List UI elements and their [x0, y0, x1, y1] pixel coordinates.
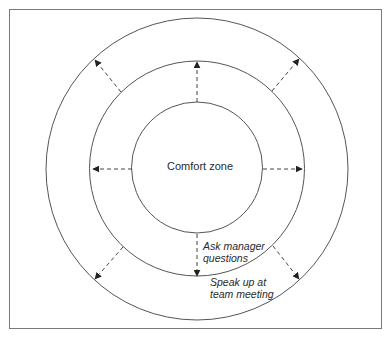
comfort-zone-label: Comfort zone [167, 160, 233, 172]
speak-up-label-line1: Speak up at [210, 276, 267, 288]
ask-manager-label-line1: Ask manager [202, 240, 265, 252]
comfort-zone-diagram: Comfort zone Ask manager questions Speak… [0, 0, 391, 339]
arrow-upper-left [95, 60, 121, 92]
arrow-lower-right [273, 246, 299, 279]
arrow-upper-right [272, 59, 299, 91]
ask-manager-label-line2: questions [203, 252, 249, 264]
arrow-lower-left [95, 247, 123, 279]
speak-up-label-line2: team meeting [210, 288, 274, 300]
